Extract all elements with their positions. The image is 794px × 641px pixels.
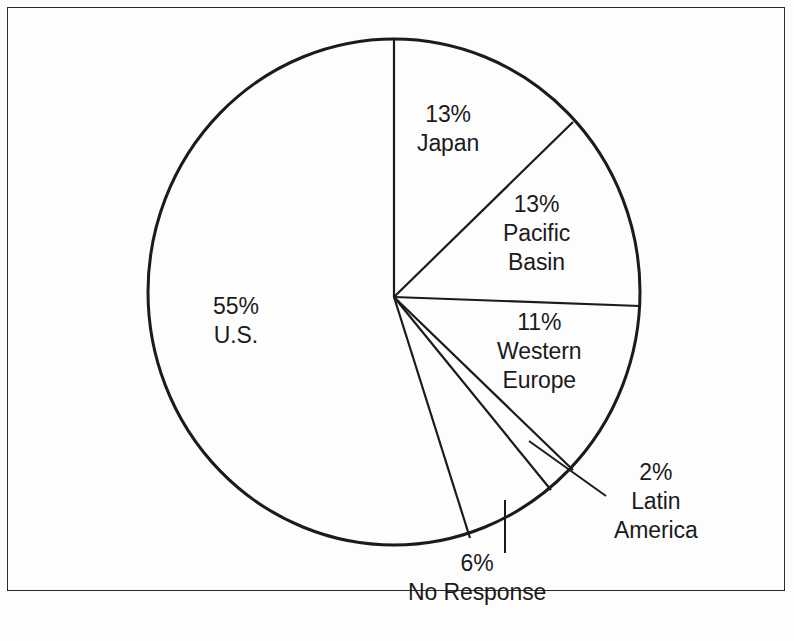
slice-name-western-europe-line1: Western: [497, 337, 582, 366]
slice-name-latin-america-line2: America: [614, 516, 698, 545]
slice-percent-western-europe: 11%: [497, 308, 582, 337]
slice-name-latin-america-line1: Latin: [614, 487, 698, 516]
slice-name-western-europe-line2: Europe: [497, 366, 582, 395]
slice-percent-japan: 13%: [417, 100, 479, 129]
slice-percent-no-response: 6%: [408, 549, 546, 578]
slice-label-latin-america: 2% Latin America: [614, 458, 698, 545]
slice-label-japan: 13% Japan: [417, 100, 479, 158]
slice-name-japan: Japan: [417, 129, 479, 158]
slice-name-pacific-basin-line1: Pacific: [503, 219, 570, 248]
slice-name-us: U.S.: [213, 321, 259, 350]
slice-percent-latin-america: 2%: [614, 458, 698, 487]
slice-label-us: 55% U.S.: [213, 292, 259, 350]
slice-label-no-response: 6% No Response: [408, 549, 546, 607]
slice-name-no-response: No Response: [408, 578, 546, 607]
slice-label-western-europe: 11% Western Europe: [497, 308, 582, 395]
slice-label-pacific-basin: 13% Pacific Basin: [503, 190, 570, 277]
slice-percent-pacific-basin: 13%: [503, 190, 570, 219]
slice-name-pacific-basin-line2: Basin: [503, 248, 570, 277]
pie-chart-figure: 13% Japan 13% Pacific Basin 11% Western …: [0, 0, 794, 641]
slice-percent-us: 55%: [213, 292, 259, 321]
